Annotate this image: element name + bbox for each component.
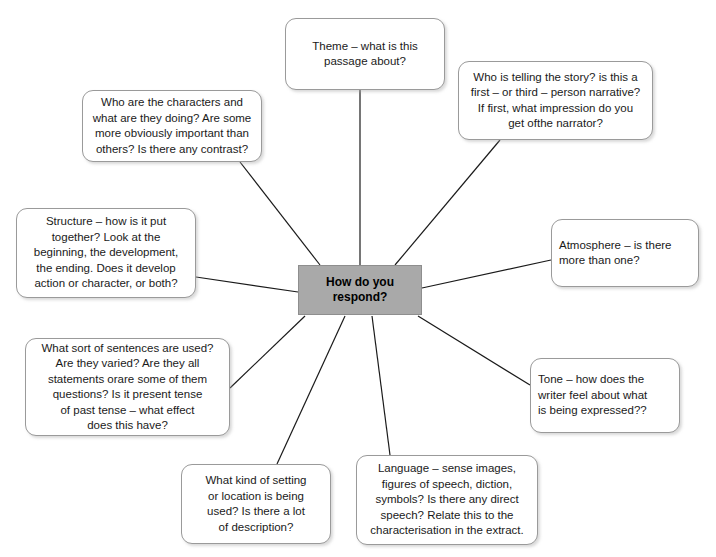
connector-characters xyxy=(240,162,320,265)
connector-atmosphere xyxy=(422,260,551,288)
connector-sentences xyxy=(230,316,305,388)
tone-node[interactable]: Tone – how does the writer feel about wh… xyxy=(530,358,680,433)
atmosphere-node[interactable]: Atmosphere – is there more than one? xyxy=(551,219,699,287)
center-node-label: How do you respond? xyxy=(326,275,394,305)
connector-tone xyxy=(418,316,530,385)
setting-node[interactable]: What kind of setting or location is bein… xyxy=(181,464,331,544)
theme-node-label: Theme – what is this passage about? xyxy=(312,39,417,70)
narrator-node-label: Who is telling the story? is this a firs… xyxy=(471,70,640,132)
theme-node[interactable]: Theme – what is this passage about? xyxy=(285,18,445,90)
structure-node-label: Structure – how is it put together? Look… xyxy=(34,214,179,292)
mind-map-canvas: Theme – what is this passage about?Who i… xyxy=(0,0,716,557)
connector-language xyxy=(372,316,390,455)
tone-node-label: Tone – how does the writer feel about wh… xyxy=(538,372,672,419)
sentences-node-label: What sort of sentences are used? Are the… xyxy=(42,341,214,434)
connector-narrator xyxy=(395,140,500,265)
narrator-node[interactable]: Who is telling the story? is this a firs… xyxy=(458,61,653,140)
setting-node-label: What kind of setting or location is bein… xyxy=(206,473,307,535)
center-node[interactable]: How do you respond? xyxy=(298,265,422,315)
characters-node-label: Who are the characters and what are they… xyxy=(93,95,252,157)
connector-structure xyxy=(196,277,298,292)
sentences-node[interactable]: What sort of sentences are used? Are the… xyxy=(25,338,230,436)
connector-setting xyxy=(277,316,345,464)
structure-node[interactable]: Structure – how is it put together? Look… xyxy=(16,208,196,298)
language-node-label: Language – sense images, figures of spee… xyxy=(370,461,523,539)
atmosphere-node-label: Atmosphere – is there more than one? xyxy=(559,238,691,269)
characters-node[interactable]: Who are the characters and what are they… xyxy=(82,90,262,162)
language-node[interactable]: Language – sense images, figures of spee… xyxy=(356,455,538,545)
